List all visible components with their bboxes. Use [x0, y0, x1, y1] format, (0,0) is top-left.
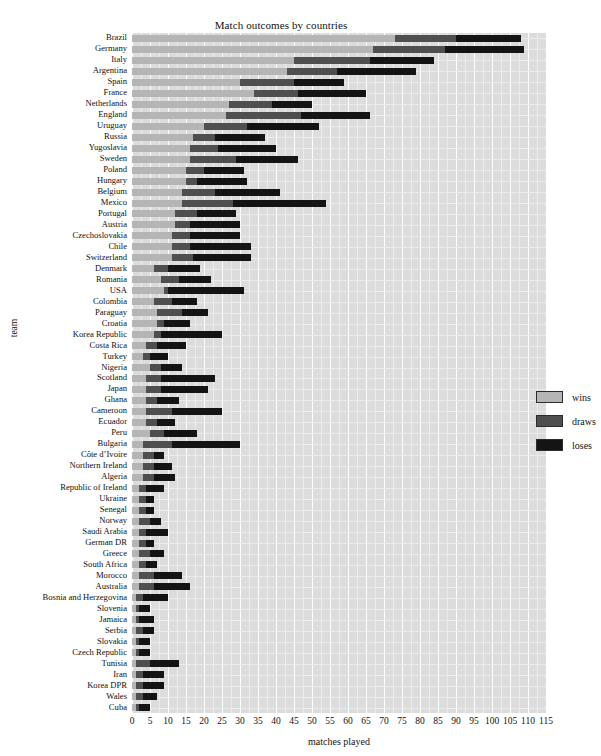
- bar-segment-draws: [226, 112, 302, 119]
- bar-row: [132, 693, 157, 700]
- bar-segment-wins: [132, 232, 172, 239]
- bar-segment-loses: [218, 145, 276, 152]
- bar-segment-wins: [132, 79, 240, 86]
- bar-segment-wins: [132, 419, 146, 426]
- y-tick-label: Costa Rica: [0, 341, 127, 350]
- bar-segment-wins: [132, 474, 143, 481]
- bar-row: [132, 112, 370, 119]
- bar-row: [132, 342, 186, 349]
- x-tick-label: 70: [379, 716, 389, 726]
- y-tick-label: Ukraine: [0, 494, 127, 503]
- bar-segment-loses: [179, 276, 211, 283]
- bar-segment-wins: [132, 430, 150, 437]
- bar-segment-wins: [132, 68, 287, 75]
- y-tick-label: Côte d’Ivoire: [0, 450, 127, 459]
- bar-segment-draws: [136, 693, 143, 700]
- bar-segment-draws: [154, 331, 161, 338]
- bar-segment-loses: [146, 529, 168, 536]
- bar-row: [132, 496, 154, 503]
- bar-row: [132, 616, 154, 623]
- bar-segment-draws: [139, 561, 146, 568]
- bar-segment-draws: [136, 627, 143, 634]
- y-tick-label: Romania: [0, 275, 127, 284]
- bar-segment-wins: [132, 112, 226, 119]
- bar-row: [132, 178, 247, 185]
- bar-row: [132, 561, 157, 568]
- x-tick-label: 0: [130, 716, 135, 726]
- bar-segment-wins: [132, 518, 139, 525]
- bar-segment-loses: [190, 243, 251, 250]
- bar-segment-draws: [186, 167, 204, 174]
- bar-segment-wins: [132, 265, 154, 272]
- bar-segment-wins: [132, 243, 172, 250]
- bar-segment-draws: [172, 232, 190, 239]
- bar-segment-draws: [204, 123, 247, 130]
- x-tick-label: 100: [485, 716, 499, 726]
- y-tick-label: USA: [0, 286, 127, 295]
- bar-segment-draws: [143, 452, 154, 459]
- bar-segment-draws: [146, 386, 160, 393]
- y-tick-label: Switzerland: [0, 253, 127, 262]
- bar-segment-wins: [132, 353, 143, 360]
- bar-segment-loses: [172, 408, 222, 415]
- bar-segment-draws: [143, 353, 150, 360]
- bar-segment-loses: [370, 57, 435, 64]
- bar-row: [132, 627, 154, 634]
- y-tick-label: Republic of Ireland: [0, 483, 127, 492]
- bar-segment-loses: [164, 430, 196, 437]
- bar-row: [132, 309, 208, 316]
- x-axis-tick-labels: 0510152025303540455055606570758085909510…: [0, 716, 562, 732]
- x-tick-label: 115: [539, 716, 553, 726]
- bar-segment-wins: [132, 320, 157, 327]
- y-tick-label: Turkey: [0, 352, 127, 361]
- bar-row: [132, 430, 197, 437]
- bar-row: [132, 156, 298, 163]
- bar-row: [132, 638, 150, 645]
- y-tick-label: Peru: [0, 428, 127, 437]
- bar-segment-loses: [193, 254, 251, 261]
- y-tick-label: Wales: [0, 692, 127, 701]
- bar-row: [132, 298, 197, 305]
- bar-segment-loses: [172, 298, 197, 305]
- x-tick-label: 65: [361, 716, 371, 726]
- bar-segment-wins: [132, 254, 172, 261]
- y-tick-label: England: [0, 110, 127, 119]
- bar-row: [132, 474, 175, 481]
- bar-segment-wins: [132, 386, 146, 393]
- bar-segment-draws: [139, 518, 150, 525]
- x-tick-label: 80: [415, 716, 425, 726]
- bar-segment-draws: [139, 583, 153, 590]
- bar-segment-loses: [215, 134, 265, 141]
- bar-row: [132, 57, 434, 64]
- bar-segment-loses: [272, 101, 312, 108]
- bar-segment-loses: [150, 660, 179, 667]
- y-tick-label: Greece: [0, 549, 127, 558]
- bar-segment-loses: [168, 287, 244, 294]
- x-tick-label: 75: [397, 716, 407, 726]
- bar-segment-draws: [186, 178, 197, 185]
- y-tick-label: Slovakia: [0, 637, 127, 646]
- bar-segment-draws: [139, 572, 153, 579]
- bar-row: [132, 221, 240, 228]
- bar-row: [132, 408, 222, 415]
- bar-segment-loses: [146, 561, 157, 568]
- y-tick-label: Denmark: [0, 264, 127, 273]
- bar-segment-draws: [175, 221, 189, 228]
- bar-segment-loses: [161, 386, 208, 393]
- bar-segment-wins: [132, 200, 182, 207]
- bar-segment-draws: [240, 79, 294, 86]
- bar-segment-draws: [150, 430, 164, 437]
- bar-segment-draws: [136, 682, 143, 689]
- bar-segment-wins: [132, 298, 154, 305]
- bar-row: [132, 331, 222, 338]
- y-tick-label: Chile: [0, 242, 127, 251]
- bar-segment-wins: [132, 309, 157, 316]
- bar-segment-draws: [157, 309, 182, 316]
- chart-title: Match outcomes by countries: [0, 19, 562, 31]
- x-tick-label: 90: [451, 716, 461, 726]
- bar-segment-loses: [143, 682, 165, 689]
- bar-row: [132, 682, 164, 689]
- bar-row: [132, 649, 150, 656]
- bar-row: [132, 210, 236, 217]
- bar-segment-wins: [132, 572, 139, 579]
